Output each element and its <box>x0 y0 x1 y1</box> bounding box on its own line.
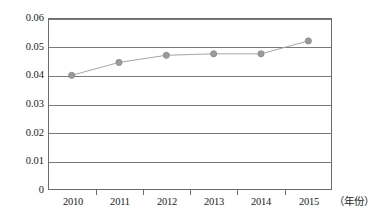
data-point-2012 <box>163 52 169 58</box>
line-chart: 0.06 0.05 0.04 0.03 0.02 0.01 0 2010 201… <box>0 0 384 223</box>
data-point-2015 <box>305 38 311 44</box>
series-line <box>72 41 309 75</box>
data-point-2011 <box>116 59 122 65</box>
data-series-layer <box>0 0 384 223</box>
series-markers <box>69 38 312 79</box>
data-point-2010 <box>69 72 75 78</box>
data-point-2013 <box>211 51 217 57</box>
data-point-2014 <box>258 51 264 57</box>
